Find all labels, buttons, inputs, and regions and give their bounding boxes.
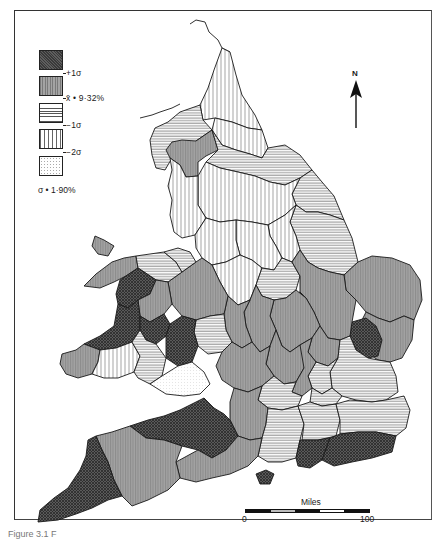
scale-max-label: 100 [360, 514, 374, 524]
legend-break-minus-2-sigma: −2σ [66, 147, 82, 157]
scotland-border [190, 20, 230, 52]
choropleth-map [0, 0, 440, 544]
legend-swatch-plus-1-sigma [39, 50, 63, 70]
legend-sigma-note: σ • 1·90% [38, 185, 76, 195]
county-east-sussex [322, 432, 396, 466]
legend-swatch-mean [39, 76, 63, 96]
legend-break-plus-1-sigma: +1σ [66, 68, 82, 78]
county-brecknockshire [166, 316, 198, 366]
figure-caption: Figure 3.1 F [8, 529, 57, 539]
legend-break-minus-1-sigma: −1σ [66, 120, 82, 130]
county-surrey [298, 402, 340, 440]
county-anglesey [92, 236, 114, 256]
scale-bar-graphic [245, 509, 370, 513]
legend-swatch-below-minus-2-sigma [39, 156, 63, 176]
legend-swatch-minus-2-sigma [39, 129, 63, 149]
north-arrow-icon [349, 72, 363, 130]
legend-swatch-minus-1-sigma [39, 103, 63, 123]
legend-break-mean: x̄ • 9·32% [66, 93, 104, 103]
county-kent [336, 396, 410, 436]
county-norfolk [344, 256, 422, 322]
scale-title: Miles [301, 497, 321, 507]
county-northumberland [200, 48, 262, 130]
scale-min-label: 0 [242, 514, 247, 524]
county-isle-of-wight [256, 470, 274, 484]
